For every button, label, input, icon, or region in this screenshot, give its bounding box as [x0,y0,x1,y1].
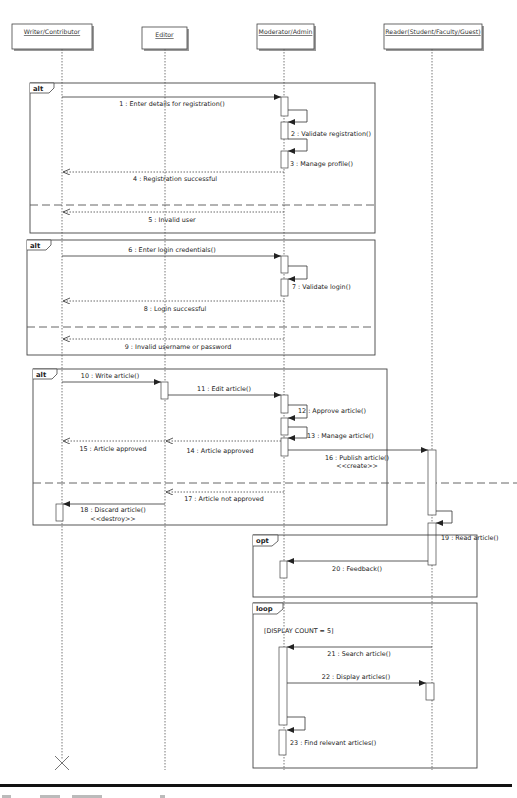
message-label: 5 : Invalid user [148,216,196,224]
activation-bar [281,151,288,168]
message-14[interactable]: 14 : Article approved [166,441,281,455]
message-3[interactable]: 3 : Manage profile() [288,139,353,168]
message-label: 14 : Article approved [186,447,253,455]
message-19[interactable]: 19 : Read article() [436,511,498,542]
activation-bar [281,395,288,413]
message-21[interactable]: 21 : Search article() [287,647,432,658]
message-7[interactable]: 7 : Validate login() [288,266,351,291]
lifeline-label-writer: Writer/Contributor [24,28,81,35]
fragment-operator-opt: opt [256,537,270,545]
fragment-alt-login: alt [27,240,375,355]
activation-bar [426,683,434,700]
message-13[interactable]: 13 : Manage article() [288,427,374,440]
activation-bar [281,122,288,139]
message-label: 3 : Manage profile() [290,160,353,168]
lifeline-label-editor: Editor [155,31,174,38]
message-4[interactable]: 4 : Registration successful [63,172,284,183]
lifeline-writer: Writer/Contributor [12,24,94,760]
message-label: 6 : Enter login credentials() [128,246,215,254]
activation-bar [428,450,436,515]
activation-bar [281,438,288,456]
message-label: 11 : Edit article() [197,385,251,393]
message-label: 22 : Display articles() [322,673,390,681]
activation-bar [281,279,288,296]
message-label: 16 : Publish article() [325,454,389,462]
message-label: 9 : Invalid username or password [125,343,231,351]
message-stereotype: <<create>> [336,462,378,470]
message-17[interactable]: 17 : Article not approved [166,492,284,503]
activation-bar [56,504,63,521]
message-10[interactable]: 10 : Write article() [62,372,161,382]
page-rule [0,784,512,787]
loop-guard: [DISPLAY COUNT = 5] [264,627,334,635]
fragment-frame[interactable] [27,240,375,355]
message-label: 10 : Write article() [81,372,139,380]
message-23[interactable]: 23 : Find relevant articles() [287,717,376,747]
message-stereotype: <<destroy>> [90,515,135,523]
lifeline-reader: Reader(Student/Faculty/Guest) [384,24,484,770]
activation-bar [161,382,168,399]
message-18[interactable]: 18 : Discard article() <<destroy>> [63,504,165,523]
fragment-operator-alt: alt [36,371,47,379]
activation-bar [279,730,286,755]
message-label: 1 : Enter details for registration() [119,100,224,108]
message-2[interactable]: 2 : Validate registration() [288,110,371,138]
activation-bar [280,561,287,578]
message-6[interactable]: 6 : Enter login credentials() [62,246,281,256]
message-5[interactable]: 5 : Invalid user [63,212,284,224]
message-label: 23 : Find relevant articles() [290,739,376,747]
activation-bar [281,256,288,273]
message-8[interactable]: 8 : Login successful [63,301,284,313]
sequence-diagram: Writer/Contributor Editor Moderator/Admi… [0,0,517,798]
message-label: 12 : Approve article() [298,407,366,415]
activation-bar [281,97,288,116]
message-label: 21 : Search article() [327,650,390,658]
message-20[interactable]: 20 : Feedback() [287,561,428,573]
message-9[interactable]: 9 : Invalid username or password [63,339,284,351]
message-label: 7 : Validate login() [292,283,351,291]
message-16[interactable]: 16 : Publish article() <<create>> [288,450,428,470]
message-11[interactable]: 11 : Edit article() [168,385,281,395]
message-label: 13 : Manage article() [307,432,374,440]
activation-bar [279,647,287,725]
message-label: 18 : Discard article() [80,506,145,514]
message-label: 20 : Feedback() [332,565,382,573]
message-label: 15 : Article approved [79,445,146,453]
activation-bar [281,418,288,435]
activation-bar [428,523,436,565]
fragment-operator-alt: alt [33,85,44,93]
fragment-operator-alt: alt [30,242,41,250]
message-label: 8 : Login successful [144,305,207,313]
message-label: 4 : Registration successful [133,175,217,183]
message-label: 17 : Article not approved [184,495,264,503]
message-15[interactable]: 15 : Article approved [63,441,165,453]
message-1[interactable]: 1 : Enter details for registration() [62,97,281,108]
message-label: 2 : Validate registration() [291,130,371,138]
message-22[interactable]: 22 : Display articles() [287,673,426,683]
fragment-operator-loop: loop [256,605,273,613]
lifeline-label-reader: Reader(Student/Faculty/Guest) [385,28,480,36]
lifeline-label-moderator: Moderator/Admin [259,28,313,35]
message-12[interactable]: 12 : Approve article() [288,405,366,418]
